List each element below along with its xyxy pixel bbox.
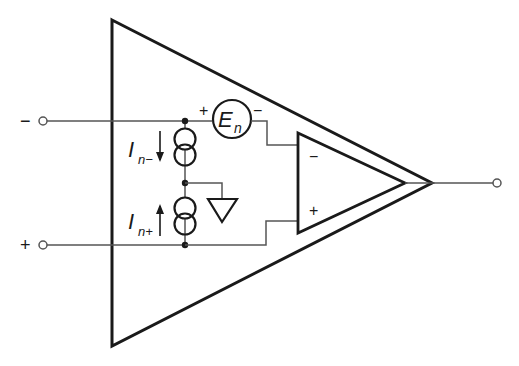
arrow-down-icon [156,131,164,162]
inverting-internal-wire [251,121,298,145]
en-subscript: n [234,120,242,136]
ground-wire [185,183,222,199]
ground-symbol-icon [208,199,237,222]
inverting-input-terminal[interactable] [39,117,47,125]
in-plus-symbol: I [128,209,134,234]
noise-model-diagram: − + I n− I n+ E n + − − + [0,0,519,366]
node-inverting [182,118,188,124]
inner-minus-sign: − [309,148,318,165]
in-minus-subscript: n− [138,152,153,167]
inverting-input-sign: − [20,111,31,131]
output-terminal[interactable] [493,179,501,187]
in-minus-symbol: I [128,137,134,162]
noninverting-input-sign: + [20,235,31,255]
noninverting-input-terminal[interactable] [39,241,47,249]
arrow-up-icon [156,204,164,236]
en-symbol: E [218,107,233,132]
in-plus-subscript: n+ [138,224,153,239]
inner-plus-sign: + [309,202,318,219]
outer-amplifier-triangle [112,20,432,346]
noninverting-internal-wire [185,221,298,245]
en-minus-sign: − [253,102,262,119]
en-plus-sign: + [199,102,208,119]
